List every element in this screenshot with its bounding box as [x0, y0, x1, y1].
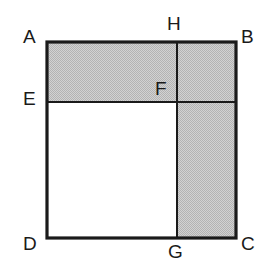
vertex-label-B: B: [241, 27, 254, 46]
vertex-label-E: E: [23, 89, 36, 108]
vertex-label-A: A: [23, 27, 36, 46]
shaded-regions: [47, 42, 236, 238]
geometry-canvas: [0, 0, 270, 275]
vertex-label-G: G: [168, 242, 183, 261]
vertex-label-D: D: [23, 234, 37, 253]
vertex-label-C: C: [241, 234, 255, 253]
shaded-top-band: [47, 42, 236, 102]
geometry-figure: A B C D E F G H: [0, 0, 270, 275]
vertex-label-F: F: [155, 79, 167, 98]
shaded-right-column: [177, 102, 236, 238]
vertex-label-H: H: [167, 14, 181, 33]
